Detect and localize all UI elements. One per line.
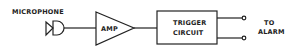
to-label: TO	[264, 19, 275, 27]
terminal-icon	[242, 36, 246, 40]
amplifier-block: AMP	[96, 12, 134, 45]
trigger-label-line1: TRIGGER	[173, 19, 206, 27]
alarm-output-terminals	[217, 16, 246, 40]
trigger-label-line2: CIRCUIT	[173, 29, 204, 37]
terminal-icon	[242, 16, 246, 20]
microphone-label: MICROPHONE	[12, 8, 64, 16]
amp-label: AMP	[101, 25, 118, 33]
block-diagram: MICROPHONE AMP TRIGGER CIRCUIT TO ALARM	[0, 0, 293, 49]
trigger-circuit-block: TRIGGER CIRCUIT	[157, 11, 217, 44]
alarm-label: ALARM	[258, 28, 285, 36]
microphone-icon	[46, 21, 64, 35]
